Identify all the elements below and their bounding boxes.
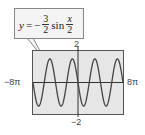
equation-sign: − [34, 19, 40, 31]
arg-denominator: 2 [67, 25, 72, 35]
equation-lhs: y [19, 19, 24, 31]
equation-func: sin [51, 19, 64, 31]
coef-numerator: 3 [43, 14, 48, 24]
graph-figure: y = − 3 2 sin x 2 2 −2 −8π 8π [0, 0, 145, 135]
x-max-label: 8π [127, 77, 138, 87]
arg-numerator: x [67, 14, 71, 24]
x-min-label: −8π [4, 77, 20, 87]
equation-equals: = [26, 19, 32, 31]
y-min-label: −2 [71, 117, 81, 127]
argument-fraction: x 2 [66, 14, 73, 35]
coefficient-fraction: 3 2 [42, 14, 49, 35]
coef-denominator: 2 [43, 25, 48, 35]
y-max-label: 2 [74, 39, 79, 49]
equation: y = − 3 2 sin x 2 [19, 14, 73, 35]
equation-callout: y = − 3 2 sin x 2 [14, 8, 84, 39]
